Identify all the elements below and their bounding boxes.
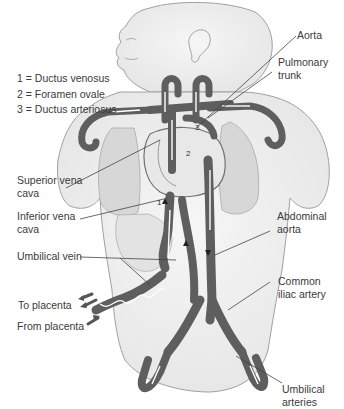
marker-ductus-venosus: 1 [157, 198, 162, 207]
label-abdominal-aorta: Abdominal aorta [277, 210, 327, 236]
marker-foramen-ovale: 2 [186, 149, 191, 158]
legend: 1 = Ductus venosus 2 = Foramen ovale 3 =… [17, 71, 117, 118]
label-superior-vena-cava: Superior vena cava [17, 174, 82, 200]
label-pulmonary-trunk: Pulmonary trunk [278, 56, 328, 82]
label-aorta: Aorta [297, 29, 322, 42]
legend-item-ductus-arteriosus: 3 = Ductus arteriosus [17, 102, 117, 118]
marker-ductus-arteriosus: 3 [195, 123, 200, 132]
legend-item-foramen-ovale: 2 = Foramen ovale [17, 87, 117, 103]
label-umbilical-vein: Umbilical vein [17, 250, 82, 263]
label-from-placenta: From placenta [17, 320, 84, 333]
label-to-placenta: To placenta [18, 299, 72, 312]
label-umbilical-arteries: Umbilical arteries [282, 383, 325, 409]
label-common-iliac-artery: Common iliac artery [278, 275, 326, 301]
label-inferior-vena-cava: Inferior vena cava [17, 210, 75, 236]
legend-item-ductus-venosus: 1 = Ductus venosus [17, 71, 117, 87]
